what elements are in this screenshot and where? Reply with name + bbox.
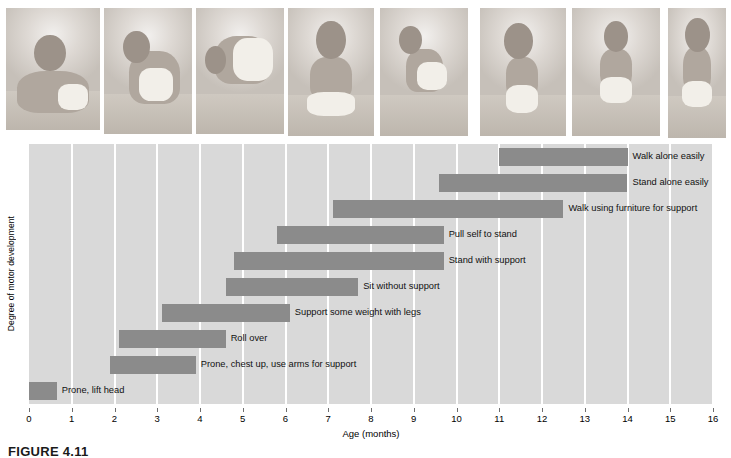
x-axis-tick xyxy=(457,408,458,412)
milestone-label: Walk alone easily xyxy=(633,147,705,166)
baby-sitting-without-support xyxy=(288,8,374,136)
x-axis-tick-label: 11 xyxy=(494,413,504,424)
milestone-label: Prone, chest up, use arms for support xyxy=(201,355,357,374)
baby-diaper-shape xyxy=(233,38,273,81)
motor-development-chart: Degree of motor development Walk alone e… xyxy=(0,140,731,408)
x-axis-tick xyxy=(542,408,543,412)
milestone-bar[interactable] xyxy=(162,304,290,322)
milestone-label: Roll over xyxy=(231,329,268,348)
milestone-bar[interactable] xyxy=(277,226,444,244)
baby-head-shape xyxy=(123,31,149,64)
x-axis-tick xyxy=(29,408,30,412)
milestone-row: Roll over xyxy=(29,326,713,352)
figure-caption: FIGURE 4.11 xyxy=(8,444,89,458)
photo-strip xyxy=(0,0,731,136)
plot-area: Walk alone easilyStand alone easilyWalk … xyxy=(29,144,713,404)
milestone-row: Prone, lift head xyxy=(29,378,713,404)
x-axis-tick xyxy=(585,408,586,412)
x-axis-tick xyxy=(286,408,287,412)
baby-diaper-shape xyxy=(600,77,632,103)
x-axis: Age (months) 012345678910111213141516 xyxy=(29,408,713,442)
x-axis-tick xyxy=(628,408,629,412)
milestone-row: Walk using furniture for support xyxy=(29,196,713,222)
figure-caption-label: FIGURE xyxy=(8,444,59,458)
milestone-label: Support some weight with legs xyxy=(295,303,421,322)
baby-standing-with-support xyxy=(480,8,566,136)
milestone-bar[interactable] xyxy=(234,252,443,270)
figure-caption-number: 4.11 xyxy=(63,444,89,458)
baby-crawling-on-hands-and-feet xyxy=(196,8,284,134)
photo-floor xyxy=(380,95,468,136)
milestone-label: Prone, lift head xyxy=(62,381,125,400)
milestone-row: Stand with support xyxy=(29,248,713,274)
milestone-bar[interactable] xyxy=(333,200,564,218)
milestone-bar[interactable] xyxy=(119,330,226,348)
baby-diaper-shape xyxy=(58,84,88,111)
baby-diaper-shape xyxy=(417,62,447,90)
milestone-row: Sit without support xyxy=(29,274,713,300)
x-axis-tick xyxy=(371,408,372,412)
x-axis-tick-label: 13 xyxy=(579,413,590,424)
x-axis-tick xyxy=(200,408,201,412)
milestone-label: Sit without support xyxy=(363,277,439,296)
milestone-bar[interactable] xyxy=(226,278,359,296)
x-axis-tick-label: 7 xyxy=(326,413,331,424)
milestone-label: Stand with support xyxy=(449,251,526,270)
baby-prone-lifting-head xyxy=(6,8,100,130)
baby-head-shape xyxy=(685,18,709,52)
y-axis-label: Degree of motor development xyxy=(2,140,20,408)
y-axis-label-text: Degree of motor development xyxy=(6,216,16,331)
x-axis-tick-label: 14 xyxy=(622,413,633,424)
x-axis-tick xyxy=(713,408,714,412)
milestone-row: Pull self to stand xyxy=(29,222,713,248)
baby-rolling-over xyxy=(104,8,192,134)
baby-diaper-shape xyxy=(682,81,712,107)
milestone-bar[interactable] xyxy=(439,174,627,192)
milestone-row: Stand alone easily xyxy=(29,170,713,196)
baby-head-shape xyxy=(316,21,345,59)
x-axis-tick-label: 12 xyxy=(537,413,548,424)
milestone-row: Prone, chest up, use arms for support xyxy=(29,352,713,378)
baby-head-shape xyxy=(205,46,226,74)
x-axis-tick xyxy=(157,408,158,412)
x-axis-tick-label: 6 xyxy=(283,413,288,424)
x-axis-tick-label: 4 xyxy=(197,413,202,424)
milestone-row: Walk alone easily xyxy=(29,144,713,170)
x-axis-title: Age (months) xyxy=(29,428,713,439)
x-axis-tick-label: 8 xyxy=(368,413,373,424)
x-axis-tick-label: 5 xyxy=(240,413,245,424)
x-axis-tick xyxy=(670,408,671,412)
x-axis-tick-label: 16 xyxy=(708,413,719,424)
baby-diaper-shape xyxy=(506,85,539,113)
milestone-bar[interactable] xyxy=(499,148,627,166)
milestone-label: Stand alone easily xyxy=(633,173,709,192)
milestone-label: Walk using furniture for support xyxy=(568,199,697,218)
x-axis-tick xyxy=(414,408,415,412)
x-axis-tick-label: 9 xyxy=(411,413,416,424)
baby-walking-with-help xyxy=(572,8,660,136)
baby-head-shape xyxy=(604,21,629,52)
x-axis-tick-label: 10 xyxy=(451,413,462,424)
x-axis-tick-label: 3 xyxy=(155,413,160,424)
x-axis-tick-label: 2 xyxy=(112,413,117,424)
baby-walking-alone xyxy=(668,8,726,138)
baby-diaper-shape xyxy=(139,68,172,101)
baby-pulling-self-to-stand xyxy=(380,8,468,136)
milestone-label: Pull self to stand xyxy=(449,225,517,244)
x-axis-tick xyxy=(499,408,500,412)
x-axis-tick-label: 15 xyxy=(665,413,676,424)
milestone-bar[interactable] xyxy=(29,382,57,400)
baby-diaper-shape xyxy=(307,92,355,115)
milestone-row: Support some weight with legs xyxy=(29,300,713,326)
x-axis-tick xyxy=(328,408,329,412)
x-axis-tick xyxy=(115,408,116,412)
x-axis-tick-label: 0 xyxy=(26,413,31,424)
photo-floor xyxy=(196,94,284,134)
x-axis-tick-label: 1 xyxy=(69,413,74,424)
milestone-bar[interactable] xyxy=(110,356,196,374)
x-axis-tick xyxy=(243,408,244,412)
x-axis-tick xyxy=(72,408,73,412)
